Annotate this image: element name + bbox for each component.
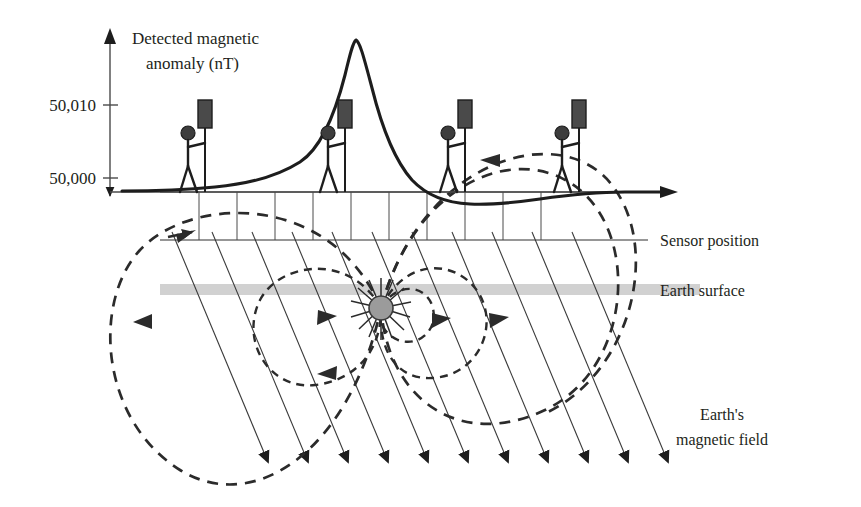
surveyor-arm-4 — [562, 143, 579, 147]
earth-surface-label: Earth surface — [660, 282, 745, 299]
dipole-loop-right-large — [381, 169, 618, 424]
x-axis-arrowhead — [660, 186, 678, 198]
sensor-box-2 — [338, 100, 352, 128]
surveyor-arm-3 — [448, 143, 465, 147]
surveyor-arm-1 — [188, 143, 205, 147]
magnetic-anomaly-figure: 50,010 50,000 Detected magnetic anomaly … — [0, 0, 861, 507]
buried-ferrous-object — [369, 296, 393, 320]
y-tick-label-50010: 50,010 — [49, 96, 96, 115]
loop-arrow-lower-left — [317, 366, 337, 380]
earth-field-label-line1: Earth's — [700, 406, 744, 423]
sensor-drop-lines — [199, 192, 541, 240]
y-axis-title-line1: Detected magnetic — [132, 29, 259, 48]
surveyor-head-2 — [321, 126, 335, 140]
dipole-field-loops — [110, 154, 636, 484]
surveyor-leg-left-2 — [320, 166, 328, 192]
sensor-position-label: Sensor position — [660, 232, 759, 250]
loop-arrow-inner-right — [317, 310, 337, 325]
surveyor-arm-2 — [328, 143, 345, 147]
earth-field-lines — [172, 232, 668, 462]
earth-field-label-line2: magnetic field — [676, 431, 768, 449]
y-axis-arrowhead — [104, 28, 116, 44]
y-tick-label-50000: 50,000 — [49, 169, 96, 188]
surveyor-leg-left-3 — [440, 166, 448, 192]
surveyor-1 — [180, 100, 212, 192]
loop-arrow-upper-left — [176, 230, 196, 243]
y-axis-title-line2: anomaly (nT) — [146, 54, 239, 73]
surveyor-leg-right-2 — [328, 166, 337, 192]
surveyor-head-4 — [555, 126, 569, 140]
sensor-box-4 — [572, 100, 586, 128]
sensor-box-3 — [458, 100, 472, 128]
surveyor-head-3 — [441, 126, 455, 140]
surveyor-4 — [554, 100, 586, 192]
surveyor-2 — [320, 100, 352, 192]
sensor-box-1 — [198, 100, 212, 128]
loop-arrow-outer-right — [489, 313, 509, 328]
loop-arrow-far-left — [133, 314, 152, 329]
loop-arrow-top-right — [480, 154, 500, 167]
surveyor-head-1 — [181, 126, 195, 140]
surveyor-leg-right-3 — [448, 166, 457, 192]
figure-canvas: 50,010 50,000 Detected magnetic anomaly … — [0, 0, 861, 507]
loop-arrow-mid-right — [432, 313, 451, 328]
